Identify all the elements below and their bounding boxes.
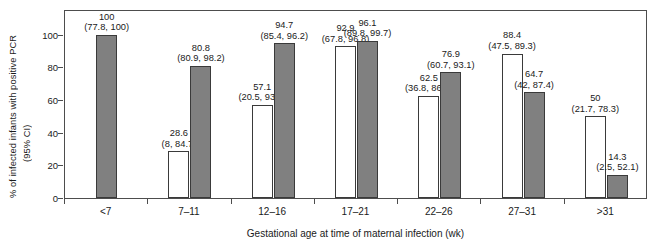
bar-ci: (85.4, 96.2) [260,31,308,42]
bar-open-1 [168,151,189,198]
bar-filled-5 [524,92,545,198]
y-tick-mark [58,198,63,199]
bar-label-open-6: 50(21.7, 78.3) [572,93,620,114]
bar-value: 64.7 [514,69,554,80]
bar-filled-3 [357,41,378,198]
bar-ci: (77.8, 100) [84,22,129,33]
bar-ci: (80.9, 98.2) [177,53,225,64]
bar-open-3 [335,46,356,198]
x-category-2: 12–16 [258,206,286,217]
y-tick-mark [58,35,63,36]
bar-value: 80.8 [177,43,225,54]
y-tick-label: 100 [32,29,58,40]
bar-value: 14.3 [596,152,638,163]
x-tick-mark [564,199,565,204]
x-tick-mark [314,199,315,204]
bar-value: 100 [84,12,129,23]
bar-value: 88.4 [488,30,536,41]
bar-ci: (2.5, 52.1) [596,162,638,173]
y-tick-label: 60 [32,94,58,105]
bar-filled-6 [607,175,628,198]
bar-ci: (47.5, 89.3) [488,41,536,52]
bar-label-filled-2: 94.7(85.4, 96.2) [260,20,308,41]
x-tick-mark [64,199,65,204]
bar-filled-4 [440,72,461,198]
bar-label-filled-4: 76.9(60.7, 93.1) [427,49,475,70]
x-tick-mark [397,199,398,204]
x-category-6: >31 [597,206,614,217]
y-tick-mark [58,165,63,166]
y-axis-title-line-1: % of infected infants with positive PCR [8,18,18,198]
x-category-5: 27–31 [508,206,536,217]
y-tick-label: 20 [32,160,58,171]
x-axis-title: Gestational age at time of maternal infe… [64,228,647,239]
bar-value: 76.9 [427,49,475,60]
bar-label-filled-5: 64.7(42, 87.4) [514,69,554,90]
x-axis-category-labels: <77–1112–1617–2122–2627–31>31 [64,206,647,222]
bar-ci: (60.7, 93.1) [427,60,475,71]
y-tick-mark [58,67,63,68]
y-tick-label: 80 [32,62,58,73]
plot-inner: 100(77.8, 100)28.6(8, 84.7)80.8(80.9, 98… [65,11,646,198]
bar-open-2 [252,105,273,198]
x-category-0: <7 [100,206,111,217]
y-tick-label: 0 [32,193,58,204]
x-tick-mark [480,199,481,204]
bar-filled-0 [96,35,117,198]
bar-label-filled-3: 96.1(89.8, 99.7) [344,18,392,39]
x-category-3: 17–21 [342,206,370,217]
plot-area: 100(77.8, 100)28.6(8, 84.7)80.8(80.9, 98… [64,10,647,199]
bar-open-4 [418,96,439,198]
bar-value: 50 [572,93,620,104]
y-tick-mark [58,100,63,101]
bar-ci: (89.8, 99.7) [344,28,392,39]
bar-label-open-5: 88.4(47.5, 89.3) [488,30,536,51]
bar-label-filled-0: 100(77.8, 100) [84,12,129,33]
bar-value: 96.1 [344,18,392,29]
bar-filled-1 [190,66,211,198]
bar-label-filled-1: 80.8(80.9, 98.2) [177,43,225,64]
bar-filled-2 [274,43,295,198]
y-tick-label: 40 [32,127,58,138]
x-tick-mark [147,199,148,204]
bar-ci: (42, 87.4) [514,80,554,91]
bar-label-filled-6: 14.3(2.5, 52.1) [596,152,638,173]
bar-chart-figure: % of infected infants with positive PCR … [0,0,671,250]
bar-ci: (21.7, 78.3) [572,104,620,115]
bar-value: 94.7 [260,20,308,31]
x-tick-mark [231,199,232,204]
y-axis-ticks: 020406080100 [30,0,58,250]
x-category-1: 7–11 [178,206,200,217]
x-category-4: 22–26 [425,206,453,217]
y-tick-mark [58,133,63,134]
